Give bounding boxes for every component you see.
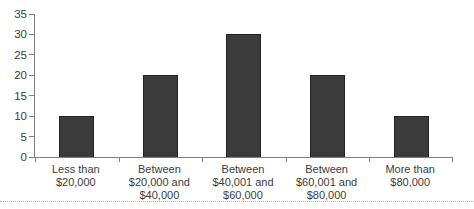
x-category-label: Between $60,001 and $80,000 [285, 161, 369, 202]
bars-container [35, 14, 453, 157]
y-tick-mark [29, 75, 34, 76]
plot-area: 05101520253035 [34, 14, 453, 158]
y-tick-label: 10 [14, 110, 27, 122]
bar-slot [286, 14, 370, 157]
y-tick-mark [29, 136, 34, 137]
y-tick-mark [29, 116, 34, 117]
y-tick-label: 5 [21, 131, 27, 143]
y-tick-mark [29, 157, 34, 158]
y-tick-mark [29, 14, 34, 15]
bar-slot [202, 14, 286, 157]
bottom-dotted-divider [0, 201, 474, 202]
y-tick-label: 0 [21, 151, 27, 163]
y-tick-mark [29, 54, 34, 55]
y-tick-label: 30 [14, 28, 27, 40]
x-category-label: Less than $20,000 [34, 161, 118, 202]
bar [310, 75, 345, 157]
y-tick-mark [29, 95, 34, 96]
x-axis-labels: Less than $20,000Between $20,000 and $40… [34, 161, 452, 202]
bar-slot [119, 14, 203, 157]
y-tick-label: 25 [14, 49, 27, 61]
bar-slot [35, 14, 119, 157]
bar [226, 34, 261, 157]
y-tick-label: 20 [14, 69, 27, 81]
y-tick-label: 35 [14, 8, 27, 20]
bar [143, 75, 178, 157]
bar [59, 116, 94, 157]
x-category-label: Between $40,001 and $60,000 [201, 161, 285, 202]
bar [394, 116, 429, 157]
x-category-label: Between $20,000 and $40,000 [118, 161, 202, 202]
y-tick-label: 15 [14, 90, 27, 102]
y-tick-mark [29, 34, 34, 35]
bar-slot [369, 14, 453, 157]
x-tick-mark [452, 157, 453, 162]
income-bar-chart: 05101520253035 Less than $20,000Between … [0, 0, 474, 209]
x-category-label: More than $80,000 [368, 161, 452, 202]
